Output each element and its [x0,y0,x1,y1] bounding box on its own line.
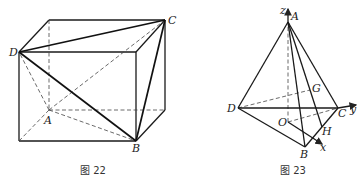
coordinate-axes [288,9,356,144]
cuboid-hidden-edges [19,20,165,141]
point-label-G: G [312,82,321,95]
vertex-label-B: B [131,142,140,155]
point-label-H: H [321,125,332,138]
figure-canvas: D C A B 图 22 z A G D C y [0,0,362,180]
axis-label-z: z [279,4,286,17]
vertex-label-A: A [290,10,299,23]
vertex-label-A: A [43,114,52,127]
cuboid-solid-edges [19,20,165,141]
caption-fig22: 图 22 [80,165,106,176]
vertex-label-B: B [299,148,308,161]
vertex-label-D: D [8,46,18,59]
caption-fig23: 图 23 [280,165,306,176]
vertex-label-C: C [168,14,177,27]
axis-label-x: x [320,141,327,154]
axis-label-y: y [349,103,357,116]
origin-label-O: O [278,116,287,129]
figure-23: z A G D C y O H B x 图 23 [226,4,357,176]
vertex-label-C: C [338,107,347,120]
figure-22: D C A B 图 22 [8,14,177,176]
tetrahedron-edges [19,20,165,141]
vertex-label-D: D [226,102,236,115]
